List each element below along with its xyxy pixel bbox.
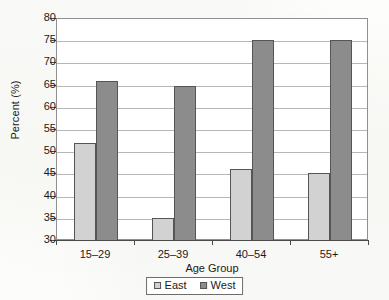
x-tick-mark (368, 240, 369, 245)
x-tick-label: 55+ (294, 248, 364, 260)
bar-east-3 (308, 173, 330, 241)
x-tick-mark (212, 240, 213, 245)
plot-area (56, 18, 368, 240)
bar-east-0 (74, 143, 96, 241)
legend-entry-east: East (154, 279, 187, 292)
y-tick-label: 65 (12, 79, 56, 90)
y-tick-label: 45 (12, 167, 56, 178)
y-tick-label: 70 (12, 56, 56, 67)
x-tick-label: 25–39 (138, 248, 208, 260)
bar-west-3 (330, 40, 352, 241)
x-tick-mark (134, 240, 135, 245)
bar-east-2 (230, 169, 252, 241)
x-tick-label: 15–29 (60, 248, 130, 260)
legend-label: East (165, 279, 187, 292)
legend-entry-west: West (200, 279, 236, 292)
y-tick-label: 60 (12, 101, 56, 112)
gridline (57, 63, 367, 64)
chart-figure: Percent (%) 3035404550556065707580 Age G… (0, 0, 389, 300)
bar-west-1 (174, 86, 196, 241)
y-tick-label: 55 (12, 123, 56, 134)
chart-legend: EastWest (146, 277, 244, 295)
legend-label: West (211, 279, 236, 292)
legend-swatch-east-icon (154, 282, 161, 289)
y-tick-label: 40 (12, 190, 56, 201)
bar-west-2 (252, 40, 274, 241)
x-tick-mark (290, 240, 291, 245)
bar-east-1 (152, 218, 174, 241)
x-axis-title: Age Group (56, 262, 368, 274)
y-tick-label: 30 (12, 234, 56, 245)
legend-swatch-west-icon (200, 282, 207, 289)
gridline (57, 41, 367, 42)
y-tick-label: 35 (12, 212, 56, 223)
y-tick-label: 50 (12, 145, 56, 156)
x-tick-label: 40–54 (216, 248, 286, 260)
y-axis: Percent (%) 3035404550556065707580 (0, 0, 56, 300)
y-tick-label: 75 (12, 34, 56, 45)
x-tick-mark (56, 240, 57, 245)
y-tick-label: 80 (12, 12, 56, 23)
bar-west-0 (96, 81, 118, 241)
